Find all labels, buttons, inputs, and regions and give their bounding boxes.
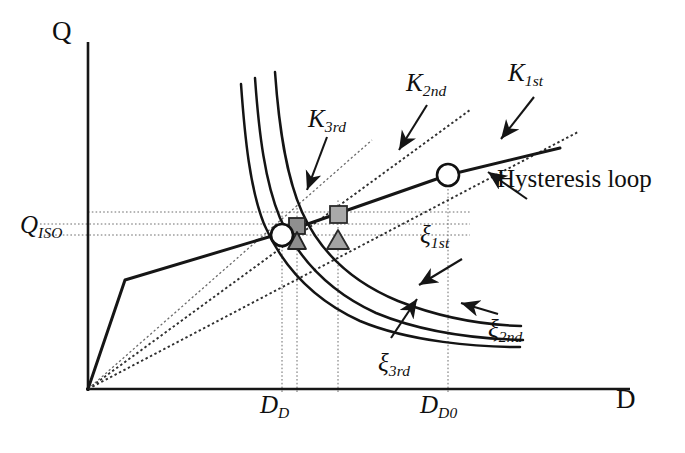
dd0-sub: D0 (438, 404, 457, 421)
figure-canvas: Q D QISO DD DD0 K3rd K2nd K1st ξ1st ξ2nd… (0, 0, 685, 453)
label-k-1st: K1st (508, 60, 543, 85)
loop-polyline (88, 148, 560, 389)
y-axis-label: Q (52, 18, 72, 45)
point-circle-d0 (437, 164, 459, 186)
k-2nd-line (88, 110, 470, 389)
arrow-xi-1st (419, 259, 462, 285)
qiso-base: Q (20, 211, 38, 238)
point-circle-iso (271, 224, 293, 246)
xi1st-sub: 1st (431, 234, 450, 251)
label-xi-3rd: ξ3rd (378, 350, 410, 375)
label-k-2nd: K2nd (406, 70, 447, 95)
hysteresis-loop-path (88, 148, 560, 389)
annotation-hysteresis-loop: Hysteresis loop (497, 166, 652, 191)
axes (86, 42, 630, 391)
x-tick-label-dd0: DD0 (420, 392, 457, 417)
label-xi-2nd: ξ2nd (488, 316, 523, 341)
label-k-3rd: K3rd (308, 106, 346, 131)
arrow-k-2nd (399, 105, 427, 150)
xi-2nd-curve (255, 78, 523, 340)
label-xi-1st: ξ1st (420, 222, 449, 247)
dd-sub: D (278, 404, 289, 421)
k3rd-base: K (308, 105, 325, 132)
xi2nd-sub: 2nd (499, 328, 523, 345)
point-square-2nd (330, 206, 347, 223)
xi3rd-sub: 3rd (389, 362, 411, 379)
qiso-sub: ISO (38, 224, 63, 241)
k1st-sub: 1st (525, 72, 544, 89)
k3rd-sub: 3rd (325, 118, 347, 135)
y-tick-label-qiso: QISO (20, 212, 63, 237)
x-axis-label: D (616, 386, 636, 413)
arrow-xi-2nd (461, 303, 498, 314)
dd0-base: D (420, 391, 438, 418)
arrow-k-1st (501, 97, 534, 139)
diagram-svg (0, 0, 685, 453)
point-triangle-2nd (327, 230, 349, 249)
arrow-xi-3rd (391, 299, 417, 338)
k2nd-base: K (406, 69, 423, 96)
xi1st-base: ξ (420, 221, 431, 248)
dd-base: D (260, 391, 278, 418)
xi3rd-base: ξ (378, 349, 389, 376)
k-3rd-line (88, 140, 372, 389)
k2nd-sub: 2nd (423, 82, 447, 99)
xi-curves (241, 72, 523, 347)
xi2nd-base: ξ (488, 315, 499, 342)
x-tick-label-dd: DD (260, 392, 289, 417)
k1st-base: K (508, 59, 525, 86)
